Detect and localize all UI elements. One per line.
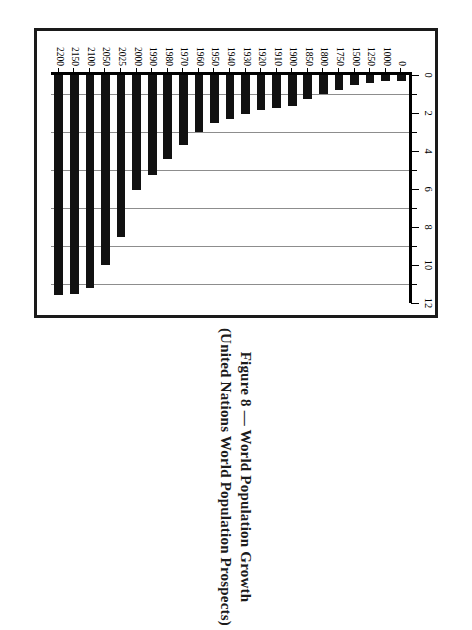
bar-row: 2025 xyxy=(117,75,126,303)
bar-row: 2200 xyxy=(54,75,63,303)
bar-row: 1750 xyxy=(335,75,344,303)
category-tick xyxy=(322,68,323,73)
bar xyxy=(195,75,204,132)
value-tick-minor xyxy=(411,208,417,209)
category-tick xyxy=(369,68,370,73)
category-tick-label: 1750 xyxy=(334,47,344,66)
category-tick-label: 1850 xyxy=(303,47,313,66)
category-tick xyxy=(354,68,355,73)
category-tick xyxy=(260,68,261,73)
bar xyxy=(241,75,250,114)
value-tick-major xyxy=(411,151,419,152)
category-tick-label: 1910 xyxy=(272,47,282,66)
category-tick xyxy=(89,68,90,73)
category-tick xyxy=(307,68,308,73)
category-tick-label: 1250 xyxy=(365,47,375,66)
value-tick-minor xyxy=(411,132,417,133)
category-tick xyxy=(276,68,277,73)
bar-row: 2100 xyxy=(86,75,95,303)
value-tick-label: 2 xyxy=(422,110,433,115)
category-tick xyxy=(213,68,214,73)
category-tick-label: 2050 xyxy=(101,47,111,66)
category-tick xyxy=(167,68,168,73)
bar-row: 1250 xyxy=(366,75,375,303)
category-tick xyxy=(182,68,183,73)
bar-row: 2050 xyxy=(101,75,110,303)
value-tick-minor xyxy=(411,94,417,95)
plot-area: 024681012 010001250150017501800185019001… xyxy=(37,31,435,315)
value-tick-major xyxy=(411,265,419,266)
bar xyxy=(179,75,188,145)
figure-title: Figure 8 — World Population Growth xyxy=(236,352,256,603)
bar xyxy=(148,75,157,175)
figure: 024681012 010001250150017501800185019001… xyxy=(0,0,472,630)
category-tick xyxy=(58,68,59,73)
bar xyxy=(381,75,390,81)
bar xyxy=(86,75,95,288)
bar xyxy=(70,75,79,294)
bar-row: 0 xyxy=(397,75,406,303)
value-tick-label: 10 xyxy=(422,260,433,271)
bar-row: 1990 xyxy=(148,75,157,303)
bar-row: 1000 xyxy=(381,75,390,303)
category-tick-label: 1990 xyxy=(147,47,157,66)
category-tick xyxy=(245,68,246,73)
bar-row: 1940 xyxy=(226,75,235,303)
bar-row: 1970 xyxy=(179,75,188,303)
bar-row: 1930 xyxy=(241,75,250,303)
bar xyxy=(350,75,359,85)
category-tick-label: 2000 xyxy=(132,47,142,66)
bar-row: 1500 xyxy=(350,75,359,303)
category-tick xyxy=(105,68,106,73)
bar-row: 1910 xyxy=(272,75,281,303)
bar-row: 1900 xyxy=(288,75,297,303)
bar xyxy=(226,75,235,119)
figure-caption: Figure 8 — World Population Growth (Unit… xyxy=(0,318,472,630)
category-tick xyxy=(136,68,137,73)
value-tick-major xyxy=(411,227,419,228)
bar xyxy=(257,75,266,110)
axes: 024681012 010001250150017501800185019001… xyxy=(51,75,409,303)
category-tick xyxy=(400,68,401,73)
value-tick-minor xyxy=(411,284,417,285)
value-tick-label: 0 xyxy=(422,72,433,77)
bar xyxy=(101,75,110,265)
category-tick-label: 1500 xyxy=(350,47,360,66)
category-tick-label: 1800 xyxy=(319,47,329,66)
category-tick xyxy=(338,68,339,73)
category-tick-label: 2200 xyxy=(54,47,64,66)
category-tick xyxy=(120,68,121,73)
category-tick-label: 1930 xyxy=(241,47,251,66)
chart-panel: 024681012 010001250150017501800185019001… xyxy=(34,28,438,318)
bar xyxy=(366,75,375,83)
figure-subtitle: (United Nations World Population Prospec… xyxy=(216,328,236,626)
category-tick-label: 1950 xyxy=(210,47,220,66)
bar xyxy=(288,75,297,106)
category-tick xyxy=(229,68,230,73)
bar xyxy=(163,75,172,159)
value-tick-minor xyxy=(411,170,417,171)
category-tick-label: 1000 xyxy=(381,47,391,66)
bar-row: 2150 xyxy=(70,75,79,303)
bar xyxy=(272,75,281,108)
category-tick-label: 1980 xyxy=(163,47,173,66)
category-tick-label: 2100 xyxy=(85,47,95,66)
bar xyxy=(335,75,344,90)
category-tick-label: 0 xyxy=(396,61,406,66)
category-tick-label: 2150 xyxy=(70,47,80,66)
category-tick xyxy=(291,68,292,73)
bar-row: 1920 xyxy=(257,75,266,303)
category-tick xyxy=(385,68,386,73)
bar-row: 1850 xyxy=(303,75,312,303)
bar-row: 1960 xyxy=(195,75,204,303)
value-tick-major xyxy=(411,75,419,76)
bar xyxy=(117,75,126,237)
value-tick-label: 8 xyxy=(422,224,433,229)
category-tick xyxy=(198,68,199,73)
bar xyxy=(397,75,406,81)
value-tick-label: 4 xyxy=(422,148,433,153)
category-tick-label: 2025 xyxy=(116,47,126,66)
bar xyxy=(132,75,141,190)
category-tick-label: 1970 xyxy=(179,47,189,66)
value-tick-major xyxy=(411,113,419,114)
